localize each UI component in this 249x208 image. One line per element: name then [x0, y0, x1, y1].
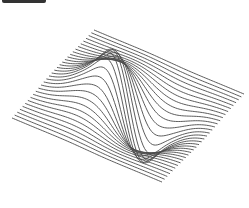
surface-line — [86, 38, 236, 102]
surface-lines — [12, 30, 244, 182]
surface-line — [17, 112, 167, 176]
surface-plot — [0, 0, 249, 208]
surface-line — [91, 33, 241, 97]
surface-line — [89, 36, 239, 100]
surface-line — [20, 109, 170, 173]
surface-line — [15, 115, 165, 179]
surface-line — [44, 76, 194, 156]
surface-line — [62, 56, 212, 136]
